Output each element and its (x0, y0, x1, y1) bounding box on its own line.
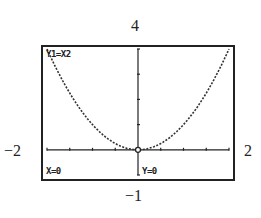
calculator-screen: Y1=X2 X=0 Y=0 (41, 45, 235, 181)
graph-plot (43, 47, 233, 179)
x-readout: X=0 (46, 166, 61, 176)
ymax-label: 4 (131, 18, 139, 34)
ymin-label: −1 (125, 188, 142, 204)
function-label: Y1=X2 (46, 49, 71, 59)
trace-cursor-icon (136, 147, 141, 152)
y-readout: Y=0 (142, 166, 157, 176)
xmin-label: −2 (4, 143, 21, 159)
xmax-label: 2 (244, 143, 252, 159)
axes (47, 49, 229, 175)
